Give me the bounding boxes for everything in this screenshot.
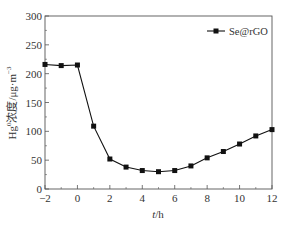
data-point-marker — [140, 168, 145, 173]
line-chart: −2024681012050100150200250300 Se@rGO t/h… — [0, 0, 288, 225]
y-tick-label: 150 — [26, 97, 43, 109]
data-point-marker — [172, 168, 177, 173]
data-point-marker — [107, 157, 112, 162]
data-point-marker — [205, 155, 210, 160]
y-tick-label: 50 — [31, 154, 43, 166]
legend-marker-icon — [214, 29, 219, 34]
data-point-marker — [221, 149, 226, 154]
legend: Se@rGO — [207, 26, 268, 37]
y-tick-label: 100 — [26, 125, 43, 137]
y-tick-label: 200 — [26, 68, 43, 80]
y-tick-label: 250 — [26, 39, 43, 51]
x-tick-label: 12 — [267, 192, 278, 204]
plot-frame — [45, 16, 272, 189]
data-point-marker — [188, 163, 193, 168]
x-tick-label: 0 — [75, 192, 81, 204]
x-tick-label: 6 — [172, 192, 178, 204]
y-tick-label: 300 — [26, 10, 43, 22]
y-label-unit: 浓度/μg·m — [5, 73, 18, 122]
y-tick-label: 0 — [37, 183, 43, 195]
data-point-marker — [253, 133, 258, 138]
y-label-hg: Hg — [6, 126, 18, 140]
series-line — [45, 64, 272, 171]
legend-label: Se@rGO — [229, 26, 268, 37]
data-point-marker — [91, 124, 96, 129]
y-label-exponent: −3 — [5, 66, 13, 74]
x-tick-label: 10 — [234, 192, 246, 204]
data-point-marker — [43, 62, 48, 67]
x-tick-label: 2 — [107, 192, 113, 204]
data-point-marker — [75, 63, 80, 68]
axis-ticks: −2024681012050100150200250300 — [26, 10, 278, 204]
data-point-marker — [59, 63, 64, 68]
x-tick-label: 4 — [140, 192, 146, 204]
x-tick-label: 8 — [204, 192, 210, 204]
data-point-marker — [124, 165, 129, 170]
x-axis-label-unit: /h — [155, 208, 164, 220]
y-axis-label: Hg0浓度/μg·m−3 — [5, 66, 18, 140]
data-point-marker — [156, 169, 161, 174]
data-point-marker — [270, 127, 275, 132]
data-point-marker — [237, 142, 242, 147]
data-series — [43, 62, 275, 174]
plot-border — [45, 16, 272, 189]
x-axis-label: t/h — [152, 208, 164, 220]
